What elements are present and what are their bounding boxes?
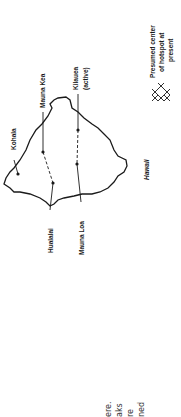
label-kilauea-active: (active) — [82, 67, 90, 90]
label-hualalai: Hualalai — [47, 228, 54, 253]
body-text-fragment-2: aks — [115, 403, 124, 417]
label-kohala: Kohala — [10, 128, 17, 150]
label-island-hawaii: Hawaii — [143, 159, 150, 180]
legend-line-3: present — [167, 38, 175, 62]
legend-line-1: Presumed center — [149, 25, 156, 78]
hawaii-volcano-map: Kohala Mauna Kea Kilauea (active) Hualal… — [0, 0, 181, 417]
label-kilauea: Kilauea — [72, 66, 79, 90]
kea-hualalai-dashed — [43, 152, 53, 183]
body-text-fragment-1: ere. — [104, 402, 113, 417]
label-mauna-loa: Mauna Loa — [78, 221, 85, 255]
body-text-fragment-4: ned — [137, 402, 146, 417]
label-mauna-kea: Mauna Kea — [39, 73, 46, 108]
kohala-summit-dot — [16, 172, 19, 175]
body-text-fragment-3: re — [126, 409, 135, 417]
legend-line-2: of hotspot at — [158, 32, 166, 72]
mauna-loa-leader — [77, 164, 81, 202]
island-outline — [4, 97, 127, 206]
kilauea-loa-dashed — [77, 130, 78, 164]
hotspot-x-icon — [152, 83, 170, 101]
